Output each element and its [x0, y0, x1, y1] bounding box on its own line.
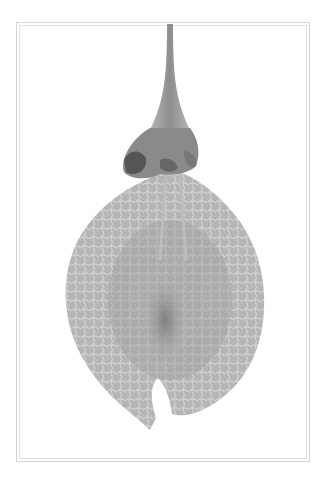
pod-stem: [150, 24, 190, 130]
pod-wing: [66, 172, 265, 430]
pod-calyx: [123, 128, 198, 178]
seed-pod-specimen: [0, 0, 331, 477]
